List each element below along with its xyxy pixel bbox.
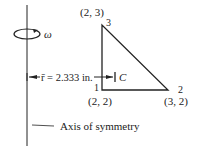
centroid-label: C — [119, 72, 126, 83]
triangle-element — [102, 25, 168, 90]
node-3-id: 3 — [106, 17, 111, 28]
node-2-coord: (3, 2) — [164, 96, 188, 107]
axis-label: Axis of symmetry — [60, 121, 139, 132]
node-1-coord: (2, 2) — [88, 96, 112, 107]
node-2-id: 2 — [178, 84, 183, 95]
dimension-label: r̄ = 2.333 in. — [40, 72, 94, 83]
node-3-coord: (2, 3) — [80, 7, 104, 18]
arrow-left-icon — [29, 75, 37, 79]
omega-label: ω — [44, 29, 52, 40]
node-1-id: 1 — [94, 82, 99, 93]
